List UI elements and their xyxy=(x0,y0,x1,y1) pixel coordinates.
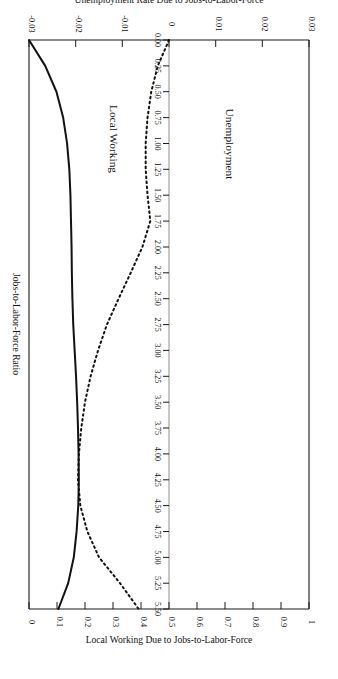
top-axis-tick-labels: 1 0.9 0.8 0.7 0.6 0.5 0.4 0.3 0.2 0.1 0 xyxy=(27,617,316,628)
ratio-tick-label: 3.75 xyxy=(153,421,162,435)
figure-rotator: 0.00 0.25 0.50 0.75 1.00 1.25 1.50 1.75 … xyxy=(0,0,338,679)
bottom-tick-label: 0.03 xyxy=(307,17,316,32)
ratio-tick-label: 2.75 xyxy=(153,318,162,332)
bottom-tick-label: 0 xyxy=(167,22,176,26)
ratio-axis-ticks xyxy=(163,40,169,609)
ratio-tick-label: 1.00 xyxy=(153,136,162,150)
top-tick-label: 0.6 xyxy=(195,617,204,627)
top-tick-label: 0.8 xyxy=(251,617,260,627)
ratio-tick-label: 0.00 xyxy=(153,33,162,47)
chart-svg: 0.00 0.25 0.50 0.75 1.00 1.25 1.50 1.75 … xyxy=(0,0,338,679)
ratio-tick-label: 4.50 xyxy=(153,499,162,513)
top-tick-label: 0.3 xyxy=(111,617,120,627)
top-tick-label: 0.2 xyxy=(83,617,92,627)
bottom-tick-label: -0.01 xyxy=(120,15,129,32)
bottom-tick-label: 0.02 xyxy=(260,17,269,32)
ratio-tick-label: 5.25 xyxy=(153,576,162,590)
top-tick-label: 0.1 xyxy=(55,617,64,627)
ratio-tick-label: 2.50 xyxy=(153,292,162,306)
ratio-tick-label: 2.25 xyxy=(153,266,162,280)
ratio-tick-label: 4.25 xyxy=(153,473,162,487)
bottom-tick-label: -0.02 xyxy=(74,15,83,32)
ratio-tick-label: 4.75 xyxy=(153,524,162,538)
bottom-axis-title: Unemployment Rate Due to Jobs-to-Labor-F… xyxy=(75,0,264,5)
ratio-tick-label: 0.25 xyxy=(153,59,162,73)
series-label-local-working: Local Working xyxy=(108,105,120,173)
ratio-tick-label: 5.00 xyxy=(153,550,162,564)
top-axis-ticks xyxy=(29,602,309,609)
ratio-tick-label: 5.50 xyxy=(153,602,162,616)
series-local-working-curve xyxy=(29,40,79,609)
ratio-tick-label: 1.25 xyxy=(153,162,162,176)
ratio-tick-label: 0.75 xyxy=(153,111,162,125)
top-axis-title: Local Working Due to Jobs-to-Labor-Force xyxy=(86,634,253,645)
bottom-tick-label: -0.03 xyxy=(27,15,36,32)
ratio-tick-label: 0.50 xyxy=(153,85,162,99)
ratio-tick-label: 4.00 xyxy=(153,447,162,461)
top-tick-label: 0.9 xyxy=(279,617,288,627)
ratio-tick-label: 2.00 xyxy=(153,240,162,254)
bottom-axis-tick-labels: 0.03 0.02 0.01 0 -0.01 -0.02 -0.03 xyxy=(27,15,316,32)
ratio-tick-label: 1.50 xyxy=(153,188,162,202)
top-tick-label: 1 xyxy=(307,620,316,624)
series-label-unemployment: Unemployment xyxy=(224,109,236,181)
top-tick-label: 0 xyxy=(27,620,36,624)
ratio-tick-label: 3.25 xyxy=(153,369,162,383)
ratio-tick-label: 3.50 xyxy=(153,395,162,409)
top-tick-label: 0.7 xyxy=(223,617,232,627)
bottom-tick-label: 0.01 xyxy=(214,17,223,32)
top-tick-label: 0.5 xyxy=(167,617,176,627)
top-tick-label: 0.4 xyxy=(139,617,148,628)
ratio-tick-labels: 0.00 0.25 0.50 0.75 1.00 1.25 1.50 1.75 … xyxy=(153,33,162,616)
category-axis-title: Jobs-to-Labor-Force Ratio xyxy=(11,273,22,375)
ratio-tick-label: 3.00 xyxy=(153,343,162,357)
ratio-tick-label: 1.75 xyxy=(153,214,162,228)
chart-figure: 0.00 0.25 0.50 0.75 1.00 1.25 1.50 1.75 … xyxy=(0,0,338,679)
ratio-axis: 0.00 0.25 0.50 0.75 1.00 1.25 1.50 1.75 … xyxy=(153,33,169,616)
